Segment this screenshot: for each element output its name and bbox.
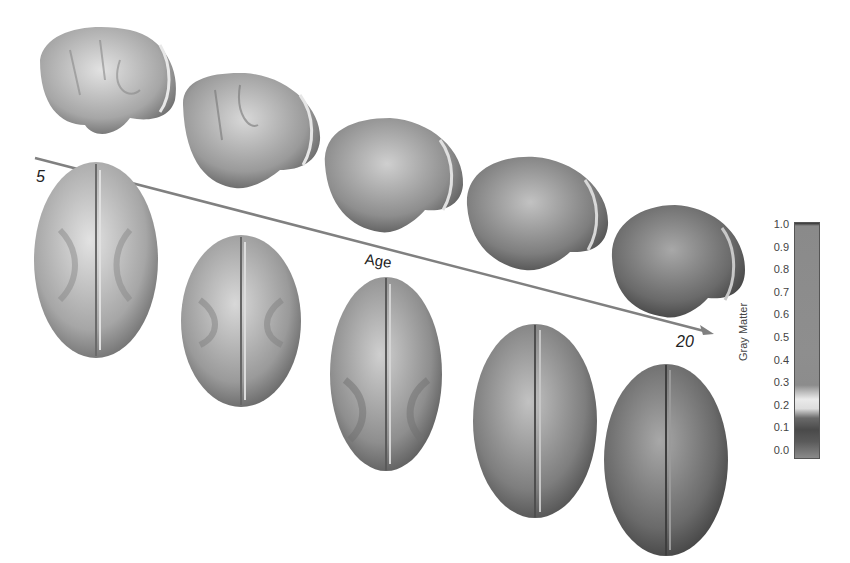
- brain-figure: [0, 0, 850, 563]
- colorbar-tick: 0.0: [774, 445, 789, 456]
- colorbar-ticks: 1.0 0.9 0.8 0.7 0.6 0.5 0.4 0.3 0.2 0.1 …: [757, 219, 789, 465]
- gray-matter-colorbar: [794, 222, 820, 459]
- lateral-brain-age-8: [183, 73, 320, 188]
- age-end-label: 20: [676, 333, 694, 351]
- top-brain-age-5: [34, 162, 158, 358]
- lateral-brain-age-17: [612, 205, 745, 318]
- colorbar-tick: 0.3: [774, 377, 789, 388]
- age-axis-label: Age: [364, 250, 393, 271]
- top-brain-age-17: [604, 364, 728, 556]
- lateral-brain-age-5: [40, 27, 176, 134]
- lateral-brain-age-11: [325, 118, 463, 232]
- age-start-label: 5: [36, 168, 45, 186]
- colorbar-tick: 0.9: [774, 242, 789, 253]
- lateral-brain-age-14: [467, 157, 608, 270]
- colorbar-tick: 0.1: [774, 422, 789, 433]
- top-brain-age-8: [181, 235, 301, 407]
- top-brain-age-11: [330, 277, 442, 471]
- colorbar-tick: 0.8: [774, 264, 789, 275]
- colorbar-tick: 0.4: [774, 355, 789, 366]
- colorbar-tick: 0.2: [774, 400, 789, 411]
- colorbar-tick: 1.0: [774, 219, 789, 230]
- colorbar-tick: 0.6: [774, 309, 789, 320]
- colorbar-tick: 0.7: [774, 287, 789, 298]
- colorbar-tick: 0.5: [774, 332, 789, 343]
- colorbar-title: Gray Matter: [737, 311, 749, 361]
- top-brain-age-14: [473, 324, 597, 518]
